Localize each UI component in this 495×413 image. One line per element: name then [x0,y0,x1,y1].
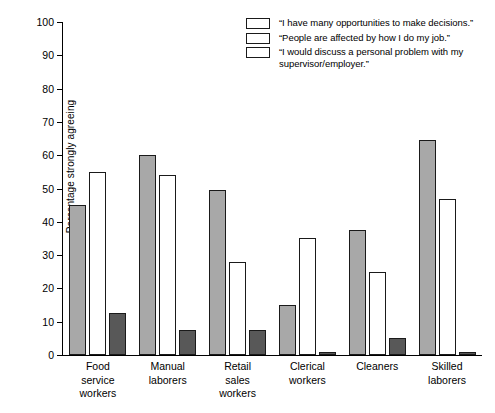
bar-group [63,22,133,355]
y-axis-tick-label: 50 [42,183,54,195]
y-axis-tick-mark [57,255,62,256]
y-axis-tick-mark [57,55,62,56]
y-axis-tick-mark [57,22,62,23]
y-axis-tick-label: 90 [42,49,54,61]
bar-series-2 [159,175,176,355]
y-axis-tick-label: 30 [42,249,54,261]
x-axis-category-labels: Food service workersManual laborersRetai… [63,360,482,401]
bar-group [203,22,273,355]
bar-series-2 [229,262,246,355]
x-axis-line [62,355,482,356]
y-axis-tick-mark [57,288,62,289]
y-axis-tick-label: 80 [42,83,54,95]
y-axis-tick-label: 10 [42,316,54,328]
bar-series-1 [69,205,86,355]
x-axis-category-label: Clerical workers [272,360,342,401]
x-axis-category-label: Food service workers [63,360,133,401]
bar-group [272,22,342,355]
bar-series-3 [109,313,126,355]
bar-series-2 [299,238,316,355]
bar-series-1 [419,140,436,355]
y-axis-tick-mark [57,222,62,223]
x-axis-category-label: Retail sales workers [203,360,273,401]
y-axis-tick-label: 60 [42,149,54,161]
bar-group [412,22,482,355]
y-axis-tick-label: 0 [48,349,54,361]
bar-series-1 [349,230,366,355]
y-axis-tick-label: 100 [36,16,54,28]
bar-groups [63,22,482,355]
bar-series-1 [139,155,156,355]
bar-series-2 [89,172,106,355]
bar-series-2 [439,199,456,356]
bar-series-3 [249,330,266,355]
y-axis-tick-label: 70 [42,116,54,128]
bar-series-3 [459,352,476,355]
y-axis-tick-mark [57,189,62,190]
bar-series-3 [319,352,336,355]
bar-series-2 [369,272,386,355]
plot-area: 0102030405060708090100 [62,22,482,355]
bar-series-1 [209,190,226,355]
x-axis-category-label: Skilled laborers [412,360,482,401]
y-axis-tick-mark [57,155,62,156]
x-axis-category-label: Manual laborers [133,360,203,401]
bar-group [133,22,203,355]
y-axis-tick-mark [57,322,62,323]
bar-chart: “I have many opportunities to make decis… [0,0,495,413]
bar-series-3 [389,338,406,355]
y-axis-tick-mark [57,122,62,123]
y-axis-tick-mark [57,355,62,356]
bar-series-1 [279,305,296,355]
bar-series-3 [179,330,196,355]
x-axis-category-label: Cleaners [342,360,412,401]
y-axis-tick-mark [57,89,62,90]
y-axis-tick-label: 40 [42,216,54,228]
bar-group [342,22,412,355]
y-axis-tick-label: 20 [42,282,54,294]
